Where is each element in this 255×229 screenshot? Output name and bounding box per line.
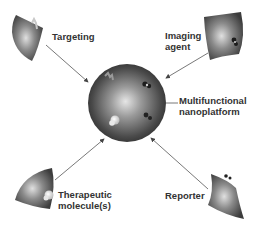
label-targeting: Targeting <box>52 31 95 42</box>
imaging-agent-wedge <box>204 12 243 60</box>
label-reporter: Reporter <box>165 190 205 201</box>
label-therapeutic-molecules: Therapeutic molecule(s) <box>58 189 112 211</box>
reporter-wedge <box>208 174 244 219</box>
label-imaging-agent: Imaging agent <box>165 30 201 52</box>
arrow-therapeutic <box>55 139 104 180</box>
nanoplatform-diagram: Targeting Imaging agent Multifunctional … <box>0 0 255 229</box>
label-multifunctional-nanoplatform: Multifunctional nanoplatform <box>179 95 247 117</box>
arrow-imaging <box>166 53 208 78</box>
therapeutic-wedge <box>15 168 54 209</box>
targeting-wedge <box>12 15 43 61</box>
central-nanoplatform-sphere <box>88 64 178 142</box>
arrow-reporter <box>151 138 208 189</box>
arrow-targeting <box>46 45 88 82</box>
